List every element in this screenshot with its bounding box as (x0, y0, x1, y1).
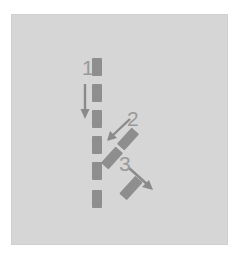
step-label-1: 1 (82, 57, 94, 78)
step-label-2: 2 (127, 108, 139, 129)
diagram-panel (11, 14, 228, 245)
step-label-3: 3 (119, 153, 131, 174)
figure-root: 1 2 3 (0, 0, 251, 260)
